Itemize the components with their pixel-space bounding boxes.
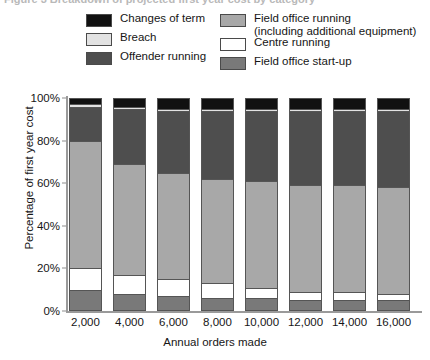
bar-segment — [289, 300, 322, 311]
legend-item-label: Centre running — [254, 36, 330, 49]
bar-segment — [245, 111, 278, 181]
legend-item-label: Changes of term — [120, 12, 205, 25]
plot-area — [68, 98, 420, 311]
bar-column[interactable] — [377, 98, 410, 311]
legend-item[interactable]: Field office start-up — [220, 55, 430, 74]
legend-item-label: Offender running — [120, 50, 206, 63]
bar-column[interactable] — [245, 98, 278, 311]
bar-segment — [157, 296, 190, 311]
bar-column[interactable] — [69, 98, 102, 311]
y-axis-tick-label: 80% — [14, 135, 60, 147]
bar-segment — [245, 98, 278, 109]
legend-item[interactable]: Breach — [86, 31, 216, 50]
bar-segment — [201, 98, 234, 109]
bar-segment — [333, 185, 366, 292]
y-axis-tick-label: 20% — [14, 262, 60, 274]
bar-segment — [69, 268, 102, 289]
bar-segment — [201, 111, 234, 179]
clipped-caption-text: Figure 3 Breakdown of projected first ye… — [4, 0, 315, 5]
y-axis-tick-mark — [62, 311, 66, 312]
y-axis-tick-label: 60% — [14, 177, 60, 189]
bar-segment — [377, 300, 410, 311]
bar-column[interactable] — [289, 98, 322, 311]
bar-segment — [289, 292, 322, 301]
bar-segment — [157, 98, 190, 109]
bar-segment — [69, 107, 102, 141]
bar-segment — [157, 279, 190, 296]
bar-segment — [201, 298, 234, 311]
y-axis-tick-mark — [62, 140, 66, 141]
legend-item[interactable]: Centre running — [220, 36, 430, 55]
legend-column-left: Changes of termBreachOffender running — [86, 12, 216, 69]
bar-segment — [289, 98, 322, 109]
bar-segment — [113, 294, 146, 311]
legend-item[interactable]: Changes of term — [86, 12, 216, 31]
legend-swatch-offender-running — [86, 52, 112, 65]
legend-item-label: Field office start-up — [254, 55, 352, 68]
chart-legend: Changes of termBreachOffender running Fi… — [0, 12, 430, 74]
bar-segment — [333, 292, 366, 301]
x-axis-line — [66, 311, 422, 313]
bar-column[interactable] — [113, 98, 146, 311]
bar-segment — [113, 109, 146, 164]
bar-segment — [377, 111, 410, 188]
bar-segment — [201, 283, 234, 298]
bar-column[interactable] — [157, 98, 190, 311]
bar-segment — [157, 173, 190, 280]
y-axis-tick-label: 40% — [14, 220, 60, 232]
bar-segment — [113, 275, 146, 294]
bar-segment — [377, 187, 410, 294]
legend-item-label: Breach — [120, 31, 156, 44]
bar-segment — [201, 179, 234, 283]
bar-segment — [245, 288, 278, 299]
y-axis-tick-mark — [62, 225, 66, 226]
legend-swatch-field-office-start-up — [220, 57, 246, 70]
bar-segment — [113, 98, 146, 107]
legend-swatch-breach — [86, 33, 112, 46]
x-axis-title: Annual orders made — [0, 336, 430, 348]
legend-column-right: Field office running (including addition… — [220, 12, 430, 74]
stacked-bar-chart: Percentage of first year cost 0%20%40%60… — [0, 84, 430, 360]
bar-column[interactable] — [201, 98, 234, 311]
y-axis-tick-label: 0% — [14, 305, 60, 317]
bar-segment — [69, 290, 102, 311]
bar-column[interactable] — [333, 98, 366, 311]
bar-segment — [333, 300, 366, 311]
legend-swatch-changes-of-term — [86, 14, 112, 27]
bar-segment — [289, 185, 322, 292]
legend-item[interactable]: Field office running (including addition… — [220, 12, 430, 36]
bar-segment — [157, 111, 190, 173]
y-axis-tick-mark — [62, 183, 66, 184]
bar-segment — [333, 111, 366, 186]
y-axis-tick-mark — [62, 98, 66, 99]
bar-segment — [69, 141, 102, 269]
bar-segment — [377, 98, 410, 109]
bar-segment — [245, 298, 278, 311]
x-axis-tick-label: 16,000 — [365, 316, 423, 328]
legend-swatch-field-office-running — [220, 14, 246, 27]
bar-segment — [289, 111, 322, 186]
legend-item[interactable]: Offender running — [86, 50, 216, 69]
legend-swatch-centre-running — [220, 38, 246, 51]
y-axis-tick-mark — [62, 268, 66, 269]
bar-segment — [333, 98, 366, 109]
bar-segment — [113, 164, 146, 275]
bar-segment — [245, 181, 278, 288]
y-axis-tick-label: 100% — [14, 92, 60, 104]
legend-item-label: Field office running (including addition… — [254, 12, 416, 37]
clipped-caption-strip: Figure 3 Breakdown of projected first ye… — [0, 0, 430, 9]
